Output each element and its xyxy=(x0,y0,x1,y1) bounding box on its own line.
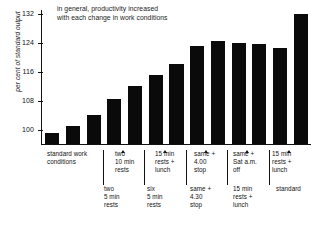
x-label-row1-1-line-2: 10 min xyxy=(115,158,134,166)
x-label-row2-2-line-2: 4.30 xyxy=(190,193,211,201)
x-label-row1-3-line-2: 4.00 xyxy=(194,158,215,166)
x-label-row1-4-line-3: off xyxy=(233,166,257,174)
x-label-connector-4 xyxy=(269,150,270,185)
bar-chart: in general, productivity increased with … xyxy=(0,0,312,228)
x-label-connector-0 xyxy=(103,150,104,185)
bar xyxy=(45,133,59,144)
x-label-row1-2-line-3: lunch xyxy=(155,166,174,174)
bar xyxy=(294,14,308,144)
x-label-connector-3 xyxy=(227,150,228,185)
x-label-row2-0: two5 minrests xyxy=(104,185,120,210)
y-tick-label-116: 116 xyxy=(10,68,34,75)
y-tick-label-108: 108 xyxy=(10,97,34,104)
x-label-row1-4: same +Sat a.m.off xyxy=(233,150,257,175)
x-label-row1-2: 15 minrests +lunch xyxy=(155,150,174,175)
x-label-row1-5-line-3: lunch xyxy=(272,166,291,174)
x-label-arrow-0 xyxy=(121,150,125,153)
bar xyxy=(169,64,183,144)
x-label-arrow-2 xyxy=(204,150,208,153)
x-label-row1-5: 15 minrests +lunch xyxy=(272,150,291,175)
bar xyxy=(128,86,142,144)
bar xyxy=(87,115,101,144)
x-label-connector-1 xyxy=(144,150,145,185)
y-tick-label-132: 132 xyxy=(10,10,34,17)
plot-area xyxy=(42,10,311,144)
x-label-row1-1: two10 minrests xyxy=(115,150,134,175)
bar xyxy=(232,43,246,144)
x-label-arrow-1 xyxy=(163,150,167,153)
bar xyxy=(273,48,287,144)
x-label-row2-1-line-2: 5 min xyxy=(147,193,163,201)
x-label-row1-0-line-1: standard work xyxy=(47,150,87,158)
x-label-row2-0-line-2: 5 min xyxy=(104,193,120,201)
x-label-row2-4: standard xyxy=(276,185,301,193)
bar xyxy=(211,41,225,144)
x-label-row1-1-line-3: rests xyxy=(115,166,134,174)
x-label-row1-4-line-2: Sat a.m. xyxy=(233,158,257,166)
x-label-row2-3-line-3: lunch xyxy=(233,201,252,209)
x-label-connector-2 xyxy=(186,150,187,185)
bar xyxy=(107,99,121,144)
x-label-row2-2-line-3: stop xyxy=(190,201,211,209)
x-label-row2-3-line-2: rests + xyxy=(233,193,252,201)
x-label-row2-0-line-3: rests xyxy=(104,201,120,209)
x-label-row1-0-line-2: conditions xyxy=(47,158,87,166)
x-label-row1-3: same +4.00stop xyxy=(194,150,215,175)
x-label-row2-3: 15 minrests +lunch xyxy=(233,185,252,210)
x-label-row1-3-line-3: stop xyxy=(194,166,215,174)
x-axis-line xyxy=(41,144,311,145)
x-label-row1-5-line-2: rests + xyxy=(272,158,291,166)
x-label-row2-3-line-1: 15 min xyxy=(233,185,252,193)
x-label-row2-1-line-1: six xyxy=(147,185,163,193)
x-label-row2-2: same +4.30stop xyxy=(190,185,211,210)
x-label-row2-0-line-1: two xyxy=(104,185,120,193)
x-label-row1-0: standard workconditions xyxy=(47,150,87,166)
bar xyxy=(252,44,266,144)
x-label-row2-4-line-1: standard xyxy=(276,185,301,193)
bar xyxy=(66,126,80,144)
y-tick-label-100: 100 xyxy=(10,126,34,133)
bar xyxy=(149,75,163,144)
y-tick-label-124: 124 xyxy=(10,39,34,46)
bar xyxy=(190,46,204,144)
x-label-arrow-3 xyxy=(245,150,249,153)
x-label-row2-1-line-3: rests xyxy=(147,201,163,209)
x-label-row2-1: six5 minrests xyxy=(147,185,163,210)
x-label-row2-2-line-1: same + xyxy=(190,185,211,193)
x-label-arrow-4 xyxy=(287,150,291,153)
x-label-row1-2-line-2: rests + xyxy=(155,158,174,166)
